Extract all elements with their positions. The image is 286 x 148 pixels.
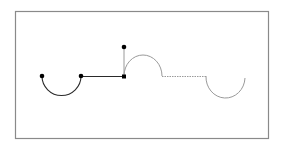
drawn-arc-segment bbox=[42, 76, 81, 96]
control-point[interactable] bbox=[122, 45, 127, 50]
path-diagram bbox=[0, 0, 286, 148]
control-point[interactable] bbox=[122, 75, 126, 79]
control-point[interactable] bbox=[79, 74, 84, 79]
frame-border bbox=[16, 12, 269, 139]
control-point[interactable] bbox=[40, 74, 45, 79]
pending-arc-segment bbox=[124, 55, 162, 76]
pending-partial-arc bbox=[206, 76, 245, 98]
